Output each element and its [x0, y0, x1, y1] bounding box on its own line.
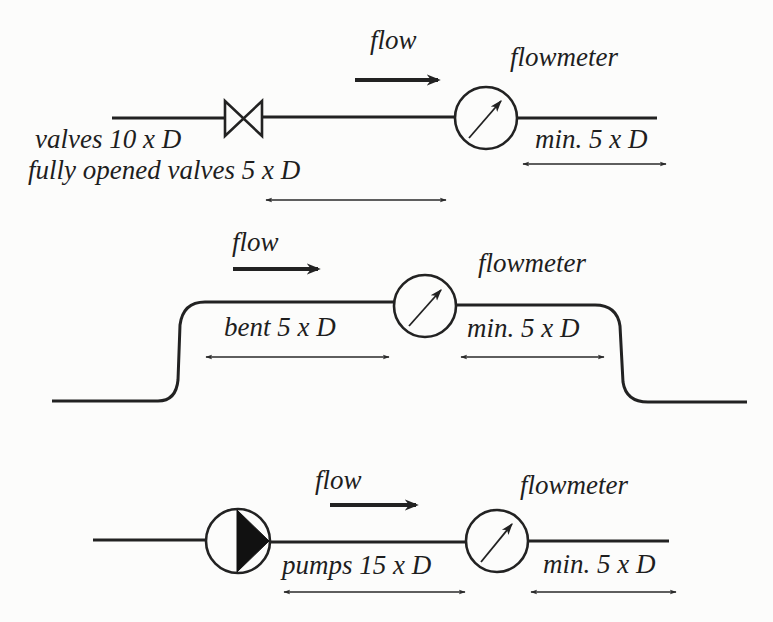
upstream-requirement-label: valves 10 x D [35, 124, 182, 154]
downstream-requirement-label: min. 5 x D [535, 124, 648, 154]
flowmeter-icon [466, 510, 528, 572]
downstream-requirement-label: min. 5 x D [467, 313, 580, 343]
panel-pumps: flow flowmeter pumps 15 x D min. 5 x D [93, 465, 676, 592]
upstream-requirement-label: bent 5 x D [224, 312, 336, 342]
upstream-requirement-label: pumps 15 x D [280, 550, 432, 580]
flow-label: flow [370, 25, 417, 55]
flowmeter-icon [455, 87, 517, 149]
pipe-bend-upstream [52, 302, 394, 401]
flowmeter-label: flowmeter [478, 248, 586, 278]
panel-bend: flow flowmeter bent 5 x D min. 5 x D [52, 227, 747, 402]
flow-label: flow [315, 465, 362, 495]
flow-label: flow [232, 227, 279, 257]
flowmeter-label: flowmeter [520, 470, 628, 500]
flowmeter-icon [394, 275, 456, 337]
upstream-requirement-label: fully opened valves 5 x D [28, 155, 301, 185]
downstream-requirement-label: min. 5 x D [543, 549, 656, 579]
flowmeter-installation-diagram: flow flowmeter valves 10 x D fully opene… [0, 0, 773, 622]
pump-icon [206, 509, 270, 573]
panel-valves: flow flowmeter valves 10 x D fully opene… [28, 25, 666, 200]
flowmeter-label: flowmeter [510, 42, 618, 72]
valve-icon [225, 101, 262, 136]
